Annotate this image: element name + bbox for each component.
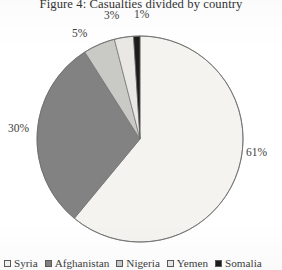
legend-item-somalia[interactable]: Somalia <box>215 258 262 269</box>
legend-swatch-icon-nigeria <box>116 260 123 267</box>
slice-value-label-yemen: 3% <box>104 9 119 21</box>
legend-swatch-icon-syria <box>4 260 11 267</box>
legend-item-syria[interactable]: Syria <box>4 258 38 269</box>
legend-item-nigeria[interactable]: Nigeria <box>116 258 160 269</box>
legend-item-yemen[interactable]: Yemen <box>167 258 208 269</box>
legend-item-afghanistan[interactable]: Afghanistan <box>45 258 110 269</box>
legend-swatch-icon-yemen <box>167 260 174 267</box>
legend-swatch-icon-somalia <box>215 260 222 267</box>
pie-chart <box>0 0 282 248</box>
legend-label: Syria <box>14 258 38 269</box>
legend-label: Nigeria <box>126 258 160 269</box>
pie-chart-svg <box>0 0 282 248</box>
slice-value-label-syria: 61% <box>246 146 267 158</box>
slice-value-label-somalia: 1% <box>134 8 149 20</box>
pie-slice-group <box>37 36 243 242</box>
chart-legend: SyriaAfghanistanNigeriaYemenSomalia <box>0 258 282 269</box>
legend-label: Somalia <box>225 258 262 269</box>
slice-value-label-nigeria: 5% <box>72 27 87 39</box>
figure-container: Figure 4: Casualties divided by country … <box>0 0 282 270</box>
legend-label: Afghanistan <box>55 258 110 269</box>
legend-label: Yemen <box>177 258 208 269</box>
legend-swatch-icon-afghanistan <box>45 260 52 267</box>
slice-value-label-afghanistan: 30% <box>8 122 29 134</box>
